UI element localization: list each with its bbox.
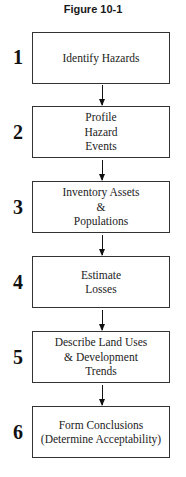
figure-title: Figure 10-1 (0, 3, 186, 15)
step-box-estimate-losses: Estimate Losses (32, 256, 170, 308)
step-number-1: 1 (8, 46, 28, 69)
step-box-describe-land-uses: Describe Land Uses & Development Trends (32, 331, 170, 383)
step-number-5: 5 (8, 346, 28, 369)
arrow-down-icon (102, 160, 103, 180)
step-number-4: 4 (8, 271, 28, 294)
step-box-identify-hazards: Identify Hazards (32, 32, 170, 84)
arrow-down-icon (102, 235, 103, 255)
step-box-profile-hazard-events: Profile Hazard Events (32, 106, 170, 158)
step-number-3: 3 (8, 196, 28, 219)
step-number-6: 6 (8, 421, 28, 444)
arrow-down-icon (102, 385, 103, 405)
arrow-down-icon (102, 310, 103, 330)
step-box-form-conclusions: Form Conclusions (Determine Acceptabilit… (32, 406, 170, 458)
arrow-down-icon (102, 85, 103, 105)
step-number-2: 2 (8, 121, 28, 144)
step-box-inventory-assets: Inventory Assets & Populations (32, 181, 170, 233)
